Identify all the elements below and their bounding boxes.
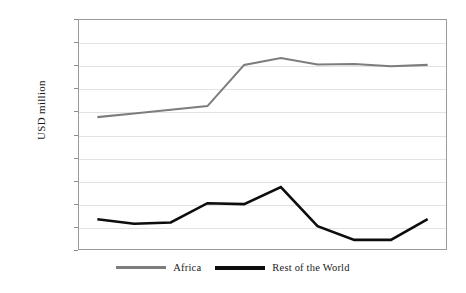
legend-label: Rest of the World: [272, 262, 349, 273]
legend-item[interactable]: Africa: [116, 262, 201, 273]
legend-color-swatch: [116, 266, 166, 269]
legend-item[interactable]: Rest of the World: [215, 262, 349, 273]
legend-label: Africa: [173, 262, 201, 273]
y-axis-tick-mark: [74, 250, 78, 251]
series-lines: [79, 20, 446, 249]
series-line: [97, 187, 427, 240]
legend-color-swatch: [215, 266, 265, 270]
plot-area: [78, 19, 447, 250]
y-axis-title: USD million: [35, 50, 47, 170]
chart-figure: USD million 25 00020 00015 00010 0005 00…: [0, 0, 466, 293]
chart-legend: AfricaRest of the World: [0, 262, 466, 273]
series-line: [97, 58, 427, 117]
